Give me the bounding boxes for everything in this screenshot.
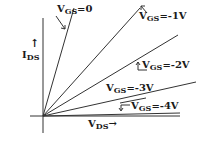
curve-vgs-minus1 (43, 8, 140, 116)
pointer-arrow-vgs0 (56, 16, 65, 29)
curve-label-vgs-minus1: VGS=-1V (139, 11, 187, 22)
curve-label-vgs-minus2: VGS=-2V (142, 60, 190, 71)
y-axis-arrow-icon: ↑ (30, 38, 39, 49)
curve-label-vgs-minus3: VGS=-3V (106, 83, 154, 94)
x-axis-arrow-icon: → (108, 118, 116, 129)
curve-value-vgs-0: =0 (77, 4, 92, 14)
curve-label-vgs-minus4: VGS=-4V (131, 101, 179, 112)
x-axis-label: VDS→ (88, 119, 117, 130)
y-axis-label: IDS (22, 50, 39, 61)
curve-label-vgs-0: VGS (57, 4, 77, 15)
